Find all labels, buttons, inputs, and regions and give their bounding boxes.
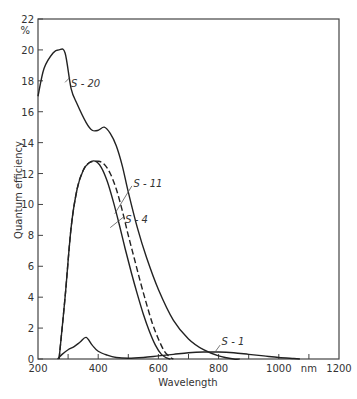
y-tick-label: 2 xyxy=(28,323,34,334)
x-tick-label: 200 xyxy=(28,363,47,374)
series-label-s-11: S - 11 xyxy=(133,178,162,189)
x-tick-label: 800 xyxy=(209,363,228,374)
series-s-1-line xyxy=(58,337,300,359)
plot-frame xyxy=(38,19,339,359)
y-tick-label: 18 xyxy=(21,76,34,87)
series-label-s-20: S - 20 xyxy=(71,78,100,89)
label-leader-line xyxy=(216,345,221,351)
y-tick-label: 22 xyxy=(21,14,34,25)
series-label-s-4: S - 4 xyxy=(125,214,148,225)
x-tick-label: 1200 xyxy=(326,363,351,374)
x-tick-label: 400 xyxy=(89,363,108,374)
x-axis-title: Wavelength xyxy=(158,377,217,388)
y-axis-unit: % xyxy=(20,25,30,36)
series-label-s-1: S - 1 xyxy=(222,336,245,347)
series-s-20-line xyxy=(38,49,240,359)
x-axis-ticks: 20040060080010001200nm xyxy=(28,354,351,374)
data-series xyxy=(38,49,300,359)
y-tick-label: 16 xyxy=(21,107,34,118)
x-tick-label: 1000 xyxy=(266,363,291,374)
y-tick-label: 6 xyxy=(28,261,34,272)
x-tick-label: 600 xyxy=(149,363,168,374)
y-axis-ticks: 0246810121416182022 xyxy=(21,14,43,365)
quantum-efficiency-chart: 0246810121416182022 20040060080010001200… xyxy=(0,0,357,399)
y-axis-title: Quantum efficiency xyxy=(13,141,24,239)
series-labels: S - 20S - 11S - 4S - 1 xyxy=(65,78,244,352)
plot-border xyxy=(38,19,339,359)
y-tick-label: 8 xyxy=(28,230,34,241)
y-tick-label: 4 xyxy=(28,292,34,303)
x-unit-label: nm xyxy=(301,363,317,374)
y-tick-label: 20 xyxy=(21,45,34,56)
